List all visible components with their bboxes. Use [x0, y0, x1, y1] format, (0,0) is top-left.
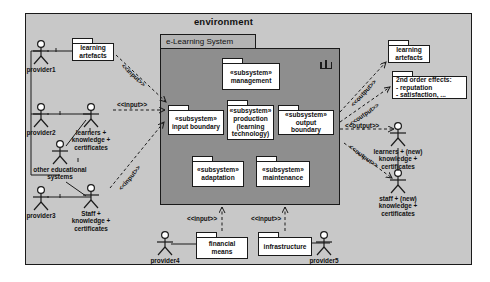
actor-staff-output[interactable]: staff + (new) knowledge + certificates	[363, 169, 433, 217]
artifact-financial-means[interactable]: financial means	[196, 232, 248, 259]
actor-stick-figure-icon	[148, 231, 182, 257]
actor-label: provider1	[24, 66, 58, 73]
artifact-label-line2: artefacts	[395, 54, 423, 62]
edge-label-input-financial: <<input>>	[187, 215, 217, 222]
artifact-label-line1: learning	[396, 46, 422, 54]
system-title-tab: e-Learning System	[160, 34, 256, 49]
artifact-label-line1: infrastructure	[264, 243, 307, 251]
environment-label: environment	[0, 16, 447, 27]
actor-provider1[interactable]: provider1	[24, 40, 58, 73]
subsystem-management[interactable]: «subsystem» management	[222, 58, 280, 90]
actor-label: provider2	[24, 129, 58, 136]
subsystem-adaptation[interactable]: «subsystem» adaptation	[192, 156, 244, 187]
actor-label-line1: learners +	[65, 129, 117, 136]
actor-provider3[interactable]: provider3	[24, 186, 58, 219]
actor-label-line2: knowledge +	[65, 217, 117, 224]
actor-label-line3: certificates	[363, 210, 433, 217]
actor-provider4[interactable]: provider4	[148, 231, 182, 264]
effects-line3: - satisfaction, ...	[396, 91, 446, 99]
actor-stick-figure-icon	[74, 103, 108, 129]
artifact-infrastructure[interactable]: infrastructure	[258, 232, 312, 256]
subsystem-name-line2: (learning	[237, 123, 265, 131]
artifact-label-line2: artefacts	[79, 52, 107, 60]
effects-line1: 2nd order effects:	[396, 76, 452, 84]
actor-stick-figure-icon	[24, 40, 58, 66]
artifact-learning-artefacts-right[interactable]: learning artefacts	[388, 40, 430, 63]
actor-stick-figure-icon	[381, 122, 415, 148]
actor-stick-figure-icon	[24, 186, 58, 212]
actor-label-line1: other educational	[25, 166, 95, 173]
stereotype-label: «subsystem»	[262, 166, 304, 174]
stereotype-label: «subsystem»	[197, 166, 239, 174]
subsystem-name: production	[233, 115, 267, 123]
actor-staff-input[interactable]: Staff + knowledge + certificates	[65, 184, 117, 232]
stereotype-label: «subsystem»	[175, 115, 217, 123]
subsystem-name: maintenance	[263, 174, 303, 182]
subsystem-production[interactable]: «subsystem» production (learning technol…	[227, 100, 274, 140]
system-port-icon	[320, 60, 332, 69]
artifact-second-order-effects[interactable]: 2nd order effects: - reputation - satisf…	[392, 71, 467, 99]
actor-stick-figure-icon	[381, 169, 415, 195]
actor-stick-figure-icon	[307, 231, 341, 257]
edge-label-output-learners: <<output>>	[345, 122, 379, 129]
actor-stick-figure-icon	[24, 103, 58, 129]
actor-label-line1: staff + (new)	[363, 195, 433, 202]
artifact-label-line2: means	[212, 248, 233, 256]
actor-label-line3: certificates	[65, 225, 117, 232]
subsystem-name: adaptation	[201, 174, 234, 182]
actor-other-educational-systems[interactable]: other educational systems	[25, 140, 95, 181]
actor-provider5[interactable]: provider5	[307, 231, 341, 264]
edge-label-input-infrastructure: <<input>>	[251, 215, 281, 222]
subsystem-input-boundary[interactable]: «subsystem» input boundary	[168, 105, 224, 135]
actor-label: provider3	[24, 212, 58, 219]
actor-label-line2: systems	[25, 173, 95, 180]
effects-line2: - reputation	[396, 84, 432, 92]
actor-label-line1: learners + (new)	[363, 148, 433, 155]
actor-label-line1: Staff +	[65, 210, 117, 217]
actor-stick-figure-icon	[43, 140, 77, 166]
artifact-label-line1: learning	[80, 44, 106, 52]
stereotype-label: «subsystem»	[230, 107, 272, 115]
subsystem-output-boundary[interactable]: «subsystem» output boundary	[278, 105, 334, 135]
subsystem-name: input boundary	[172, 123, 220, 131]
subsystem-name: output boundary	[281, 119, 331, 134]
artifact-learning-artefacts-left[interactable]: learning artefacts	[72, 38, 114, 61]
actor-label: provider5	[307, 257, 341, 264]
actor-label: provider4	[148, 257, 182, 264]
subsystem-name-line3: technology)	[232, 130, 269, 138]
subsystem-maintenance[interactable]: «subsystem» maintenance	[256, 156, 310, 187]
subsystem-name: management	[231, 77, 272, 85]
actor-label-line2: knowledge +	[363, 202, 433, 209]
stereotype-label: «subsystem»	[230, 69, 272, 77]
actor-stick-figure-icon	[74, 184, 108, 210]
artifact-label-line1: financial	[209, 240, 236, 248]
diagram-canvas: environment e-Learning System «subsystem…	[0, 0, 490, 282]
stereotype-label: «subsystem»	[285, 111, 327, 119]
edge-label-input-learners: <<input>>	[117, 101, 147, 108]
actor-provider2[interactable]: provider2	[24, 103, 58, 136]
